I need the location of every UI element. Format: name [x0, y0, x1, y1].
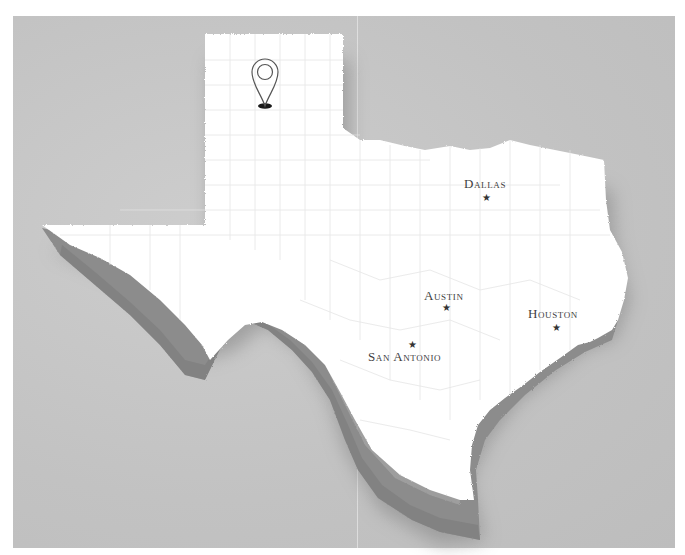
city-label-san-antonio: San Antonio: [368, 349, 441, 365]
star-icon: ★: [552, 323, 561, 333]
city-label-houston: Houston: [528, 306, 578, 322]
texas-map: [0, 0, 685, 555]
star-icon: ★: [482, 193, 491, 203]
city-label-dallas: Dallas: [464, 176, 506, 192]
star-icon: ★: [442, 303, 451, 313]
